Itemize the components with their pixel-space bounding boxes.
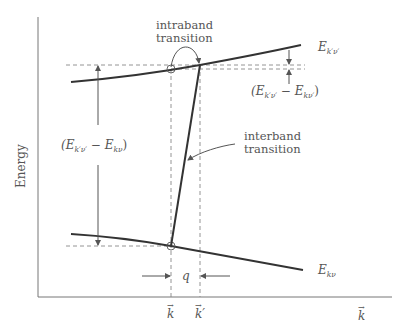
intraband-arc [171,47,199,67]
interband-label-line2: transition [244,142,301,156]
lower-band-curve [71,234,303,270]
q-label: q [182,269,190,283]
band-diagram: intraband transition interband transitio… [0,0,407,334]
interband-label-line1: interband [244,129,302,143]
tick-k-prime-vector-arrow: → [195,301,202,310]
big-gap-label: (Ek′ν′ − Ekν) [61,138,127,154]
x-axis-label-vector-arrow: → [358,303,365,312]
intraband-label-line1: intraband [156,18,214,32]
intraband-label-line2: transition [156,31,213,45]
interband-pointer [188,144,235,160]
lower-band-label: Ekν [317,263,336,279]
y-axis-label: Energy [14,144,28,188]
upper-band-curve [71,45,301,82]
tick-k-vector-arrow: → [167,301,174,310]
small-gap-label: (Ek′ν′ − Ekν′) [251,84,319,100]
upper-band-label: Ek′ν′ [317,40,340,56]
bands [71,45,303,270]
